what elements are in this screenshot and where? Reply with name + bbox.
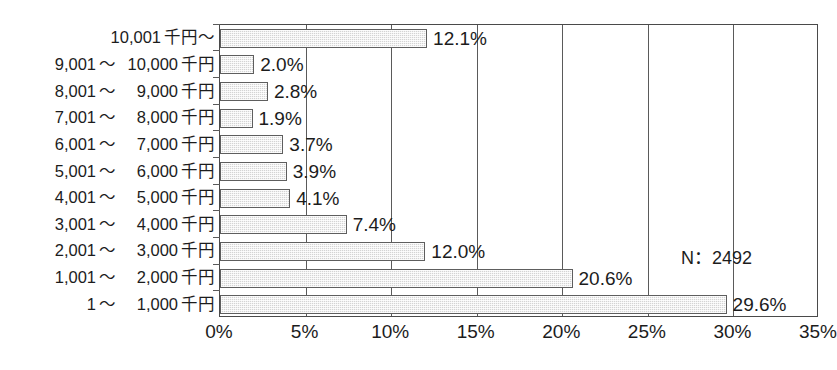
bar[interactable] (220, 189, 290, 208)
y-axis-label: 3,001～4,000千円 (44, 214, 215, 234)
bar[interactable] (220, 29, 427, 48)
y-axis-label: 5,001～6,000千円 (44, 161, 215, 181)
range-lower: 3,001 (44, 214, 96, 234)
x-axis-tick-label: 20% (542, 319, 580, 345)
y-axis-tick (213, 264, 220, 265)
range-lower: 1,001 (44, 267, 96, 287)
bar-row: 2.0% (220, 55, 817, 74)
plot-area: 12.1%2.0%2.8%1.9%3.7%3.9%4.1%7.4%12.0%20… (219, 24, 818, 317)
range-upper: 7,000 (118, 134, 178, 154)
y-axis-label: 6,001～7,000千円 (44, 134, 215, 154)
range-upper: 9,000 (118, 81, 178, 101)
bar-row: 7.4% (220, 215, 817, 234)
range-lower: 7,001 (44, 107, 96, 127)
x-axis-tick-label: 5% (291, 319, 318, 345)
range-unit: 千円 (178, 240, 215, 260)
range-upper: 5,000 (118, 187, 178, 207)
x-axis-tick-label: 10% (371, 319, 409, 345)
range-unit: 千円 (178, 161, 215, 181)
sample-size-annotation: N：2492 (681, 247, 752, 269)
bar-row: 4.1% (220, 189, 817, 208)
range-lower: 10,001 (111, 27, 161, 47)
range-tilde: ～ (96, 54, 118, 74)
range-unit: 千円 (178, 54, 215, 74)
range-unit: 千円～ (161, 27, 215, 47)
x-axis-tick-label: 15% (457, 319, 495, 345)
bar-value-label: 12.1% (433, 27, 487, 50)
range-upper: 2,000 (118, 267, 178, 287)
range-unit: 千円 (178, 107, 215, 127)
bar-value-label: 1.9% (259, 107, 302, 130)
range-unit: 千円 (178, 187, 215, 207)
x-axis-tick-labels: 0%5%10%15%20%25%30%35% (219, 319, 818, 349)
range-lower: 4,001 (44, 187, 96, 207)
range-upper: 4,000 (118, 214, 178, 234)
bar-value-label: 3.9% (293, 160, 336, 183)
range-upper: 6,000 (118, 161, 178, 181)
bar[interactable] (220, 135, 283, 154)
range-tilde: ～ (96, 214, 118, 234)
bar[interactable] (220, 242, 425, 261)
y-axis-tick (213, 130, 220, 131)
range-tilde: ～ (96, 107, 118, 127)
bar[interactable] (220, 215, 347, 234)
range-unit: 千円 (178, 267, 215, 287)
range-upper: 3,000 (118, 240, 178, 260)
range-upper: 1,000 (118, 294, 178, 314)
bar-value-label: 29.6% (733, 293, 787, 316)
y-axis-tick (213, 104, 220, 105)
range-tilde: ～ (96, 161, 118, 181)
range-unit: 千円 (178, 214, 215, 234)
y-axis-label: 7,001～8,000千円 (44, 107, 215, 127)
bar-row: 1.9% (220, 109, 817, 128)
range-lower: 6,001 (44, 134, 96, 154)
bar-row: 12.1% (220, 29, 817, 48)
x-axis-tick-label: 0% (205, 319, 232, 345)
bar-row: 2.8% (220, 82, 817, 101)
bar-value-label: 3.7% (289, 133, 332, 156)
bar-value-label: 7.4% (353, 213, 396, 236)
range-lower: 9,001 (44, 54, 96, 74)
bar[interactable] (220, 82, 268, 101)
range-tilde: ～ (96, 294, 118, 314)
range-lower: 2,001 (44, 240, 96, 260)
range-unit: 千円 (178, 294, 215, 314)
bar-value-label: 2.0% (260, 53, 303, 76)
y-axis-tick (213, 24, 220, 25)
x-axis-tick-label: 35% (799, 319, 837, 345)
range-unit: 千円 (178, 134, 215, 154)
y-axis-label: 1,001～2,000千円 (44, 267, 215, 287)
range-tilde: ～ (96, 240, 118, 260)
y-axis-tick (213, 157, 220, 158)
bar-value-label: 12.0% (431, 240, 485, 263)
y-axis-label: 1～1,000千円 (44, 294, 215, 314)
bar[interactable] (220, 109, 253, 128)
range-lower: 5,001 (44, 161, 96, 181)
bar[interactable] (220, 55, 254, 74)
y-axis-label: 8,001～9,000千円 (44, 81, 215, 101)
y-axis-tick (213, 77, 220, 78)
range-tilde: ～ (96, 134, 118, 154)
y-axis-label: 9,001～10,000千円 (44, 54, 215, 74)
x-axis-tick-label: 25% (628, 319, 666, 345)
range-upper: 8,000 (118, 107, 178, 127)
bar-value-label: 2.8% (274, 80, 317, 103)
y-axis-label: 10,001千円～ (111, 27, 215, 47)
y-axis-label: 2,001～3,000千円 (44, 240, 215, 260)
y-axis-tick (213, 237, 220, 238)
range-tilde: ～ (96, 267, 118, 287)
bar-row: 3.7% (220, 135, 817, 154)
bar[interactable] (220, 295, 727, 314)
y-axis-tick (213, 50, 220, 51)
bar-value-label: 4.1% (296, 187, 339, 210)
x-axis-tick-label: 30% (713, 319, 751, 345)
bar[interactable] (220, 269, 573, 288)
bar-value-label: 20.6% (579, 267, 633, 290)
y-axis-tick (213, 210, 220, 211)
range-lower: 8,001 (44, 81, 96, 101)
bar[interactable] (220, 162, 287, 181)
y-axis-label: 4,001～5,000千円 (44, 187, 215, 207)
bar-row: 20.6% (220, 269, 817, 288)
range-tilde: ～ (96, 81, 118, 101)
